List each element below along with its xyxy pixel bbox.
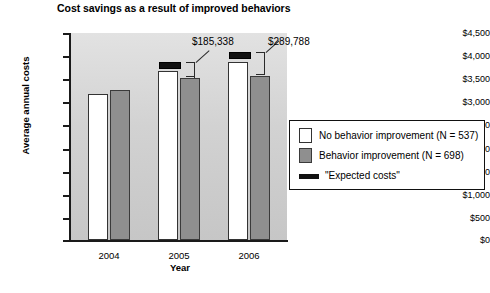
y-tick xyxy=(63,218,70,220)
legend-swatch-gray-icon xyxy=(299,148,312,163)
x-tick-label-2005: 2005 xyxy=(149,250,209,261)
y-tick xyxy=(63,56,70,58)
bar-2005-improvement xyxy=(180,78,200,240)
bar-2005-no-improvement xyxy=(158,71,178,240)
annotation-2005: $185,338 xyxy=(192,36,234,47)
y-tick-label: $4,500 xyxy=(428,28,490,38)
y-tick-label: $500 xyxy=(428,213,490,223)
callout-bracket-2006-stem xyxy=(264,52,265,75)
x-tick-label-2006: 2006 xyxy=(219,250,279,261)
y-axis-line xyxy=(69,33,71,242)
y-tick-label: $3,000 xyxy=(428,97,490,107)
expected-cost-marker-2006 xyxy=(229,52,251,59)
y-tick-label: $0 xyxy=(428,235,490,245)
y-tick xyxy=(63,79,70,81)
legend-label-improvement: Behavior improvement (N = 698) xyxy=(319,148,464,163)
annotation-2006: $289,788 xyxy=(268,36,310,47)
legend-label-expected-costs: "Expected costs" xyxy=(325,168,400,183)
callout-bracket-2005-bottom xyxy=(186,76,195,77)
x-axis-title: Year xyxy=(150,262,210,273)
y-tick xyxy=(63,195,70,197)
y-axis-title: Average annual costs xyxy=(20,11,31,201)
x-tick-label-2004: 2004 xyxy=(79,250,139,261)
bar-2004-improvement xyxy=(110,90,130,240)
x-axis-line xyxy=(69,240,288,242)
legend-swatch-dash-icon xyxy=(299,174,319,179)
bar-2006-improvement xyxy=(250,76,270,240)
y-tick xyxy=(63,33,70,35)
y-tick-label: $3,500 xyxy=(428,74,490,84)
y-tick xyxy=(63,149,70,151)
bar-2004-no-improvement xyxy=(88,94,108,240)
chart-title: Cost savings as a result of improved beh… xyxy=(57,2,290,14)
y-tick xyxy=(63,102,70,104)
legend-swatch-white-icon xyxy=(299,128,312,143)
chart-legend: No behavior improvement (N = 537) Behavi… xyxy=(289,120,485,190)
y-tick xyxy=(63,172,70,174)
chart-canvas: Cost savings as a result of improved beh… xyxy=(0,0,490,293)
y-tick xyxy=(63,240,70,242)
y-tick xyxy=(63,125,70,127)
y-tick-label: $4,000 xyxy=(428,51,490,61)
expected-cost-marker-2005 xyxy=(159,62,181,69)
bar-2006-no-improvement xyxy=(228,62,248,240)
y-tick-label: $1,000 xyxy=(428,190,490,200)
callout-bracket-2006-bottom xyxy=(256,74,265,75)
legend-label-no-improvement: No behavior improvement (N = 537) xyxy=(319,128,478,143)
